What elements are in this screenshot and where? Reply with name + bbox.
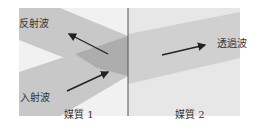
- transmitted-wave-label: 透過波: [217, 37, 247, 49]
- incident-wave-label: 入射波: [20, 91, 50, 103]
- wave-diagram: 反射波 入射波 透過波 媒質 1 媒質 2: [0, 0, 264, 131]
- medium-1-label: 媒質 1: [64, 108, 94, 120]
- reflected-wave-label: 反射波: [19, 17, 49, 29]
- medium-2-label: 媒質 2: [175, 108, 205, 120]
